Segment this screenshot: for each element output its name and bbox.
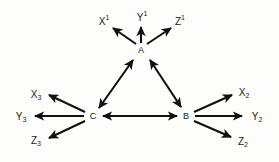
edge-c-a bbox=[99, 60, 133, 108]
causal-graph-svg: A B C X1 Y1 Z1 X2 Y2 Z2 X3 Y3 Z3 bbox=[0, 0, 279, 162]
node-label-x1: X1 bbox=[99, 14, 110, 26]
node-affix-x1: 1 bbox=[105, 14, 109, 21]
node-label-x3: X3 bbox=[31, 89, 42, 102]
node-affix-x3: 3 bbox=[37, 94, 41, 101]
node-label-b: B bbox=[183, 111, 189, 121]
node-label-z2: Z2 bbox=[238, 136, 248, 149]
edge-b-x2 bbox=[194, 95, 232, 112]
edge-a-x1 bbox=[113, 28, 136, 44]
node-label-z3: Z3 bbox=[31, 135, 41, 148]
spokes-from-c bbox=[35, 95, 85, 138]
node-label-y1: Y1 bbox=[137, 10, 148, 22]
node-affix-z1: 1 bbox=[181, 14, 185, 21]
node-label-z1: Z1 bbox=[175, 14, 185, 26]
node-affix-y3: 3 bbox=[22, 116, 26, 123]
spokes-from-b bbox=[194, 95, 242, 137]
node-label-c: C bbox=[90, 111, 97, 121]
node-affix-x2: 2 bbox=[245, 92, 249, 99]
edge-b-z2 bbox=[194, 121, 231, 137]
node-affix-y2: 2 bbox=[258, 116, 262, 123]
edge-c-x3 bbox=[49, 95, 85, 112]
node-affix-z2: 2 bbox=[244, 141, 248, 148]
edge-a-z1 bbox=[147, 28, 171, 44]
spokes-from-a bbox=[113, 27, 171, 44]
node-label-x2: X2 bbox=[239, 87, 250, 100]
node-affix-y1: 1 bbox=[143, 10, 147, 17]
node-label-a: A bbox=[138, 45, 144, 55]
node-label-y2: Y2 bbox=[252, 111, 263, 124]
node-affix-z3: 3 bbox=[37, 140, 41, 147]
diagram-canvas: A B C X1 Y1 Z1 X2 Y2 Z2 X3 Y3 Z3 bbox=[0, 0, 279, 162]
node-label-y3: Y3 bbox=[16, 111, 27, 124]
edge-c-z3 bbox=[49, 121, 85, 138]
bidirectional-edge-group bbox=[99, 60, 181, 116]
edge-a-b bbox=[150, 60, 181, 107]
